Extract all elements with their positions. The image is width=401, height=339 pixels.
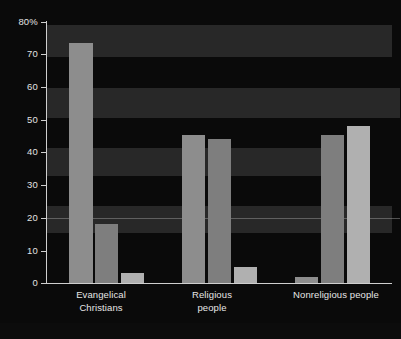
bar-religious-1[interactable]: [182, 135, 205, 284]
bar-religious-3[interactable]: [234, 267, 257, 283]
y-tick-50: [41, 120, 46, 121]
y-tick-label-0: 0: [33, 277, 38, 288]
y-tick-label-30: 30: [27, 179, 38, 190]
bottom-cropped-caption: [0, 323, 401, 339]
y-tick-70: [41, 54, 46, 55]
y-tick-80: [41, 22, 46, 23]
y-tick-label-70: 70: [27, 48, 38, 59]
bar-evangelical-1[interactable]: [69, 43, 93, 283]
bar-evangelical-2[interactable]: [95, 224, 118, 283]
y-tick-label-60: 60: [27, 81, 38, 92]
y-tick-label-10: 10: [27, 245, 38, 256]
bar-nonreligious-1[interactable]: [295, 277, 318, 284]
y-tick-30: [41, 185, 46, 186]
bar-nonreligious-3[interactable]: [347, 126, 370, 283]
y-tick-label-50: 50: [27, 114, 38, 125]
bar-evangelical-3[interactable]: [121, 273, 144, 283]
group-label-evangelical: Evangelical Christians: [57, 289, 145, 314]
y-tick-10: [41, 251, 46, 252]
y-tick-20: [41, 218, 46, 219]
x-axis: [46, 283, 392, 284]
bar-religious-2[interactable]: [208, 139, 231, 283]
y-tick-label-80: 80%: [18, 16, 38, 27]
group-label-nonreligious: Nonreligious people: [281, 289, 391, 302]
bar-nonreligious-2[interactable]: [321, 135, 344, 284]
bar-chart: 80% 70 60 50 40 30 20 10 0: [0, 0, 401, 339]
y-tick-60: [41, 87, 46, 88]
chart-canvas: 80% 70 60 50 40 30 20 10 0: [0, 0, 401, 339]
group-label-religious: Religious people: [168, 289, 256, 314]
plot-area: [47, 22, 392, 283]
y-tick-label-20: 20: [27, 212, 38, 223]
y-tick-40: [41, 152, 46, 153]
y-tick-0: [41, 283, 46, 284]
y-tick-label-40: 40: [27, 146, 38, 157]
